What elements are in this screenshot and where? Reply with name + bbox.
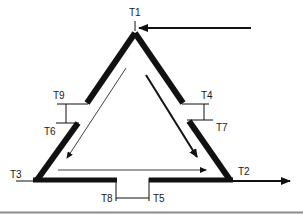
label-t2: T2 xyxy=(238,166,250,177)
label-t1: T1 xyxy=(129,7,141,18)
inner-left-arrow xyxy=(67,68,126,158)
label-t8: T8 xyxy=(101,193,113,204)
label-t9: T9 xyxy=(53,90,65,101)
label-t3: T3 xyxy=(10,169,22,180)
label-t5: T5 xyxy=(153,193,165,204)
left-upper-conductor xyxy=(87,33,135,103)
label-t4: T4 xyxy=(201,90,213,101)
triangle-circuit-diagram: T1 T9 T6 T4 T7 T8 T5 T3 T2 xyxy=(0,0,303,215)
label-t7: T7 xyxy=(216,122,228,133)
right-upper-conductor xyxy=(135,33,183,103)
label-t6: T6 xyxy=(44,126,56,137)
